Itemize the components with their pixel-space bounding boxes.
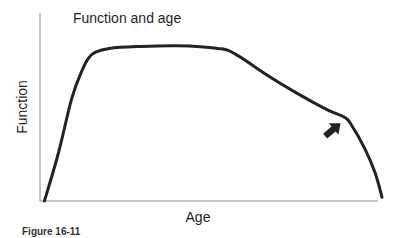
x-axis-label: Age <box>186 209 211 225</box>
figure-caption: Figure 16-11 <box>22 226 81 237</box>
chart-title: Function and age <box>73 10 181 26</box>
y-axis-label: Function <box>14 80 30 134</box>
arrow-icon <box>323 123 340 138</box>
chart: Function and age Function Age Figure 16-… <box>0 0 403 238</box>
arrow-annotation <box>323 123 340 138</box>
